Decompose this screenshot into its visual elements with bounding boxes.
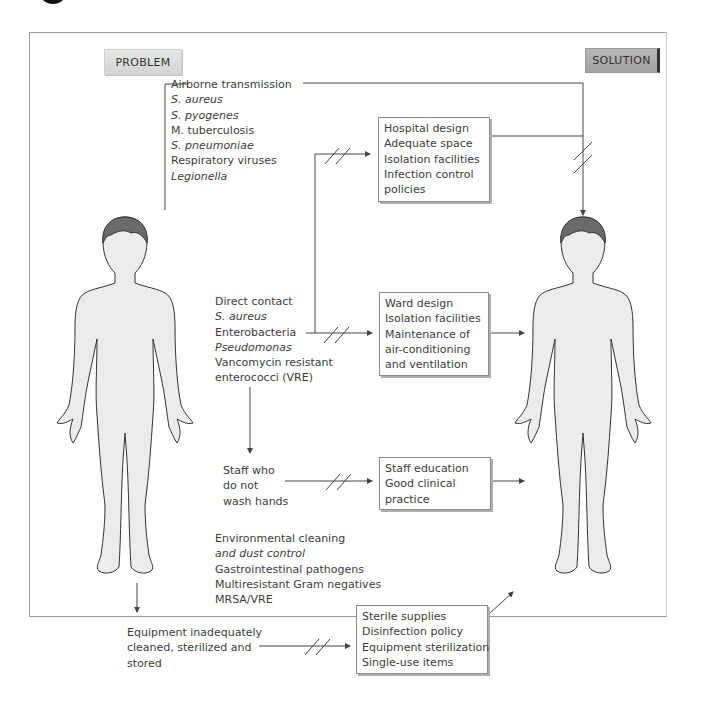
airborne-title: Airborne transmission xyxy=(171,77,292,92)
problem-person-figure xyxy=(55,215,195,585)
airborne-item: M. tuberculosis xyxy=(171,123,292,138)
solution-person-figure xyxy=(513,215,653,585)
direct-contact-item: S. aureus xyxy=(215,309,333,324)
equipment-line: cleaned, sterilized and xyxy=(127,640,262,655)
staff-line: Staff who xyxy=(223,463,288,478)
direct-contact-item: Enterobacteria xyxy=(215,325,333,340)
solution-line: practice xyxy=(385,492,485,507)
equipment-problem-text: Equipment inadequately cleaned, steriliz… xyxy=(127,625,262,671)
direct-contact-item: Pseudomonas xyxy=(215,340,333,355)
solution-line: Good clinical xyxy=(385,476,485,491)
ward-design-box: Ward design Isolation facilities Mainten… xyxy=(379,292,489,376)
sterile-supplies-box: Sterile supplies Disinfection policy Equ… xyxy=(356,605,488,674)
direct-contact-list: Direct contact S. aureus Enterobacteria … xyxy=(215,294,333,386)
direct-contact-item: Vancomycin resistant xyxy=(215,355,333,370)
solution-line: Disinfection policy xyxy=(362,624,482,639)
environmental-line: Environmental cleaning xyxy=(215,531,381,546)
direct-contact-title: Direct contact xyxy=(215,294,333,309)
environmental-list: Environmental cleaning and dust control … xyxy=(215,531,381,607)
solution-line: Adequate space xyxy=(384,136,484,151)
solution-line: Hospital design xyxy=(384,121,484,136)
airborne-item: Respiratory viruses xyxy=(171,153,292,168)
solution-line: Ward design xyxy=(385,296,483,311)
equipment-line: stored xyxy=(127,656,262,671)
staff-hand-washing-text: Staff who do not wash hands xyxy=(223,463,288,509)
hospital-design-box: Hospital design Adequate space Isolation… xyxy=(378,117,490,202)
staff-line: do not xyxy=(223,478,288,493)
environmental-line: Gastrointestinal pathogens xyxy=(215,562,381,577)
airborne-item: S. pyogenes xyxy=(171,108,292,123)
airborne-item: S. aureus xyxy=(171,92,292,107)
solution-line: Isolation facilities xyxy=(385,311,483,326)
airborne-item: Legionella xyxy=(171,169,292,184)
solution-line: Sterile supplies xyxy=(362,609,482,624)
equipment-line: Equipment inadequately xyxy=(127,625,262,640)
solution-line: Maintenance of xyxy=(385,327,483,342)
environmental-line: Multiresistant Gram negatives xyxy=(215,577,381,592)
solution-line: and ventilation xyxy=(385,357,483,372)
staff-education-box: Staff education Good clinical practice xyxy=(379,457,491,510)
solution-line: Single-use items xyxy=(362,655,482,670)
solution-line: Equipment sterilization xyxy=(362,640,482,655)
solution-line: Isolation facilities xyxy=(384,152,484,167)
airborne-item: S. pneumoniae xyxy=(171,138,292,153)
solution-line: air-conditioning xyxy=(385,342,483,357)
solution-line: policies xyxy=(384,182,484,197)
environmental-line: and dust control xyxy=(215,546,381,561)
solution-line: Staff education xyxy=(385,461,485,476)
staff-line: wash hands xyxy=(223,494,288,509)
airborne-transmission-list: Airborne transmission S. aureus S. pyoge… xyxy=(171,77,292,184)
solution-line: Infection control xyxy=(384,167,484,182)
direct-contact-item: enterococci (VRE) xyxy=(215,370,333,385)
